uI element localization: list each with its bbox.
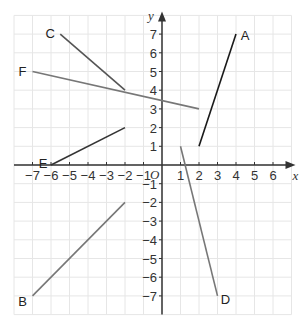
segment-b <box>33 202 126 296</box>
x-tick-label: 6 <box>269 168 276 183</box>
y-axis-arrow-icon <box>158 11 166 21</box>
x-tick-label: −2 <box>118 168 133 183</box>
segment-label-b: B <box>18 294 27 309</box>
y-tick-label: −4 <box>142 233 157 248</box>
coordinate-diagram: −7−6−5−4−3−2−1123456−7−6−5−4−3−2−1123456… <box>0 0 304 333</box>
segment-label-e: E <box>39 156 48 171</box>
y-tick-label: 6 <box>150 46 157 61</box>
x-tick-label: −4 <box>81 168 96 183</box>
y-tick-label: −7 <box>142 289 157 304</box>
segment-label-a: A <box>241 28 250 43</box>
x-tick-label: −3 <box>99 168 114 183</box>
y-tick-label: −5 <box>142 252 157 267</box>
y-tick-label: −6 <box>142 270 157 285</box>
x-tick-label: 1 <box>177 168 184 183</box>
x-tick-label: 2 <box>195 168 202 183</box>
y-tick-label: 2 <box>150 121 157 136</box>
y-axis-label: y <box>146 8 154 23</box>
x-tick-label: 5 <box>251 168 258 183</box>
x-tick-label: 3 <box>214 168 221 183</box>
coordinate-plane: −7−6−5−4−3−2−1123456−7−6−5−4−3−2−1123456… <box>0 0 304 333</box>
origin-label: O <box>150 167 160 182</box>
segment-label-f: F <box>19 64 27 79</box>
segment-label-d: D <box>221 292 230 307</box>
x-tick-label: 4 <box>232 168 239 183</box>
y-tick-label: −2 <box>142 195 157 210</box>
x-axis-label: x <box>292 168 299 183</box>
segment-label-c: C <box>46 26 55 41</box>
y-tick-label: 5 <box>150 65 157 80</box>
y-tick-label: −3 <box>142 214 157 229</box>
y-tick-label: 7 <box>150 27 157 42</box>
x-tick-label: −5 <box>62 168 77 183</box>
y-tick-label: 3 <box>150 102 157 117</box>
labels: −7−6−5−4−3−2−1123456−7−6−5−4−3−2−1123456… <box>18 8 298 309</box>
y-tick-label: 1 <box>150 139 157 154</box>
y-tick-label: 4 <box>150 83 157 98</box>
